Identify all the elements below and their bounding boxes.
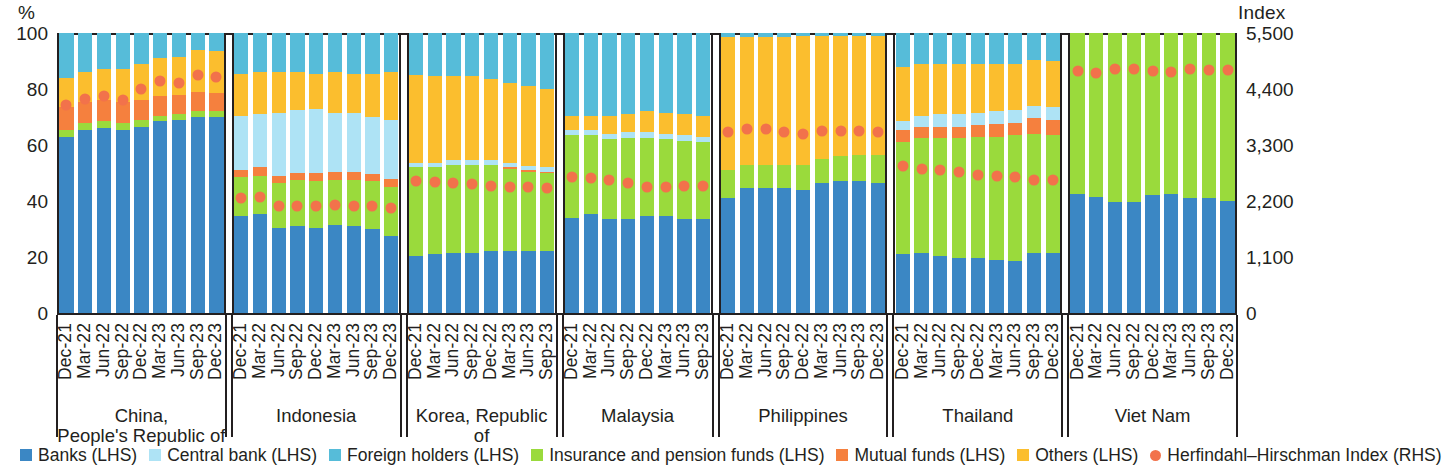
stacked-bar[interactable] (272, 33, 286, 313)
stacked-bar[interactable] (134, 33, 148, 313)
bar-slot[interactable] (850, 33, 869, 313)
stacked-bar[interactable] (97, 33, 111, 313)
bar-slot[interactable] (638, 33, 657, 313)
bar-slot[interactable] (170, 33, 189, 313)
bar-slot[interactable] (1068, 33, 1087, 313)
bar-slot[interactable] (1087, 33, 1106, 313)
stacked-bar[interactable] (796, 33, 810, 313)
bar-slot[interactable] (737, 33, 756, 313)
stacked-bar[interactable] (503, 33, 517, 313)
bar-slot[interactable] (869, 33, 888, 313)
bar-slot[interactable] (694, 33, 713, 313)
legend-item[interactable]: Others (LHS) (1017, 446, 1138, 464)
bar-slot[interactable] (812, 33, 831, 313)
stacked-bar[interactable] (777, 33, 791, 313)
bar-slot[interactable] (76, 33, 95, 313)
bar-slot[interactable] (307, 33, 326, 313)
stacked-bar[interactable] (1027, 33, 1041, 313)
bar-slot[interactable] (756, 33, 775, 313)
bar-slot[interactable] (675, 33, 694, 313)
stacked-bar[interactable] (852, 33, 866, 313)
legend-item[interactable]: Foreign holders (LHS) (329, 446, 519, 464)
stacked-bar[interactable] (309, 33, 323, 313)
legend-item[interactable]: Central bank (LHS) (149, 446, 317, 464)
bar-slot[interactable] (382, 33, 401, 313)
bar-slot[interactable] (1043, 33, 1062, 313)
bar-slot[interactable] (57, 33, 76, 313)
stacked-bar[interactable] (172, 33, 186, 313)
legend-item[interactable]: Herfindahl–Hirschman Index (RHS) (1150, 446, 1441, 464)
bar-slot[interactable] (619, 33, 638, 313)
stacked-bar[interactable] (640, 33, 654, 313)
bar-slot[interactable] (363, 33, 382, 313)
bar-slot[interactable] (538, 33, 557, 313)
stacked-bar[interactable] (521, 33, 535, 313)
bar-slot[interactable] (1143, 33, 1162, 313)
bar-slot[interactable] (344, 33, 363, 313)
bar-slot[interactable] (132, 33, 151, 313)
bar-slot[interactable] (519, 33, 538, 313)
bar-slot[interactable] (893, 33, 912, 313)
stacked-bar[interactable] (253, 33, 267, 313)
bar-slot[interactable] (407, 33, 426, 313)
stacked-bar[interactable] (1183, 33, 1197, 313)
stacked-bar[interactable] (871, 33, 885, 313)
bar-slot[interactable] (656, 33, 675, 313)
bar-slot[interactable] (1199, 33, 1218, 313)
bar-slot[interactable] (269, 33, 288, 313)
bar-slot[interactable] (1025, 33, 1044, 313)
bar-slot[interactable] (563, 33, 582, 313)
stacked-bar[interactable] (1127, 33, 1141, 313)
stacked-bar[interactable] (428, 33, 442, 313)
bar-slot[interactable] (425, 33, 444, 313)
stacked-bar[interactable] (328, 33, 342, 313)
bar-slot[interactable] (987, 33, 1006, 313)
stacked-bar[interactable] (465, 33, 479, 313)
stacked-bar[interactable] (290, 33, 304, 313)
stacked-bar[interactable] (347, 33, 361, 313)
stacked-bar[interactable] (409, 33, 423, 313)
stacked-bar[interactable] (896, 33, 910, 313)
bar-slot[interactable] (600, 33, 619, 313)
stacked-bar[interactable] (1108, 33, 1122, 313)
bar-slot[interactable] (500, 33, 519, 313)
bar-slot[interactable] (1106, 33, 1125, 313)
bar-slot[interactable] (775, 33, 794, 313)
bar-slot[interactable] (113, 33, 132, 313)
bar-slot[interactable] (288, 33, 307, 313)
stacked-bar[interactable] (758, 33, 772, 313)
stacked-bar[interactable] (446, 33, 460, 313)
stacked-bar[interactable] (234, 33, 248, 313)
bar-slot[interactable] (444, 33, 463, 313)
legend-item[interactable]: Insurance and pension funds (LHS) (531, 446, 824, 464)
bar-slot[interactable] (95, 33, 114, 313)
bar-slot[interactable] (482, 33, 501, 313)
bar-slot[interactable] (251, 33, 270, 313)
legend-item[interactable]: Mutual funds (LHS) (836, 446, 1005, 464)
stacked-bar[interactable] (1046, 33, 1060, 313)
stacked-bar[interactable] (696, 33, 710, 313)
stacked-bar[interactable] (384, 33, 398, 313)
stacked-bar[interactable] (365, 33, 379, 313)
bar-slot[interactable] (232, 33, 251, 313)
stacked-bar[interactable] (677, 33, 691, 313)
stacked-bar[interactable] (721, 33, 735, 313)
stacked-bar[interactable] (59, 33, 73, 313)
stacked-bar[interactable] (833, 33, 847, 313)
stacked-bar[interactable] (659, 33, 673, 313)
stacked-bar[interactable] (815, 33, 829, 313)
stacked-bar[interactable] (484, 33, 498, 313)
bar-slot[interactable] (463, 33, 482, 313)
bar-slot[interactable] (1181, 33, 1200, 313)
bar-slot[interactable] (326, 33, 345, 313)
bar-slot[interactable] (912, 33, 931, 313)
stacked-bar[interactable] (621, 33, 635, 313)
bar-slot[interactable] (1124, 33, 1143, 313)
bar-slot[interactable] (1162, 33, 1181, 313)
legend-item[interactable]: Banks (LHS) (20, 446, 137, 464)
bar-slot[interactable] (1218, 33, 1237, 313)
bar-slot[interactable] (794, 33, 813, 313)
bar-slot[interactable] (968, 33, 987, 313)
bar-slot[interactable] (151, 33, 170, 313)
bar-slot[interactable] (581, 33, 600, 313)
